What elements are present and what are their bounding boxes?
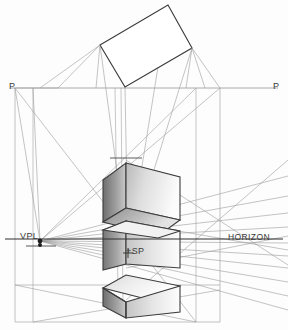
label-vpl: VPL	[20, 232, 38, 241]
label-sp: +SP	[126, 247, 144, 256]
box-below-horizon	[103, 275, 180, 318]
label-p-left: P	[9, 82, 15, 91]
plan-view-rectangle	[100, 5, 192, 87]
perspective-drawing-canvas: P P VPL +SP HORIZON	[0, 0, 288, 330]
label-horizon: HORIZON	[228, 233, 270, 242]
vpl-node	[38, 239, 43, 247]
label-p-right: P	[273, 82, 279, 91]
construction-lines-svg	[0, 0, 288, 330]
